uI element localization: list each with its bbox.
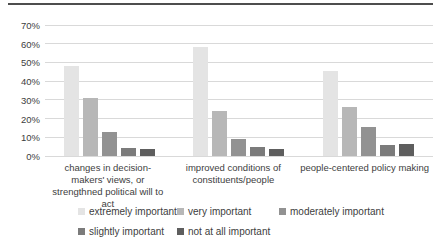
plot-area xyxy=(45,25,433,156)
bar-group xyxy=(304,25,433,156)
legend-label: very important xyxy=(188,206,251,217)
legend-swatch-icon xyxy=(177,228,184,235)
bar-slightly-important xyxy=(380,145,395,156)
legend-item-slightly-important: slightly important xyxy=(78,226,177,237)
y-tick-label: 50% xyxy=(21,57,40,68)
bar-slightly-important xyxy=(121,148,136,156)
legend-label: moderately important xyxy=(290,206,384,217)
y-tick-label: 40% xyxy=(21,76,40,87)
bar-not-at-all-important xyxy=(399,144,414,156)
bar-extremely-important xyxy=(193,47,208,156)
bar-slightly-important xyxy=(250,147,265,156)
bar-extremely-important xyxy=(323,71,338,156)
bar-extremely-important xyxy=(64,66,79,156)
legend: extremely importantvery importantmoderat… xyxy=(78,206,384,237)
x-axis-category-labels: changes in decision-makers' views, or st… xyxy=(45,162,433,210)
y-tick-label: 60% xyxy=(21,38,40,49)
category-label: changes in decision-makers' views, or st… xyxy=(45,162,171,210)
bar-groups xyxy=(45,25,433,156)
legend-item-moderately-important: moderately important xyxy=(279,206,384,217)
legend-item-not-at-all-important: not at all important xyxy=(177,226,279,237)
legend-swatch-icon xyxy=(177,208,184,215)
legend-item-very-important: very important xyxy=(177,206,279,217)
bar-very-important xyxy=(83,98,98,156)
bar-not-at-all-important xyxy=(140,149,155,156)
y-tick-label: 0% xyxy=(26,151,40,162)
bar-not-at-all-important xyxy=(269,149,284,156)
bar-moderately-important xyxy=(361,127,376,156)
legend-swatch-icon xyxy=(78,208,85,215)
y-tick-label: 20% xyxy=(21,113,40,124)
category-label: improved conditions of constituents/peop… xyxy=(171,162,297,210)
legend-label: slightly important xyxy=(89,226,164,237)
top-divider xyxy=(8,3,433,5)
bar-moderately-important xyxy=(231,139,246,156)
legend-item-extremely-important: extremely important xyxy=(78,206,177,217)
bar-very-important xyxy=(212,111,227,156)
legend-label: extremely important xyxy=(89,206,177,217)
y-tick-label: 10% xyxy=(21,132,40,143)
legend-swatch-icon xyxy=(78,228,85,235)
y-tick-label: 30% xyxy=(21,94,40,105)
chart-canvas: 0%10%20%30%40%50%60%70% changes in decis… xyxy=(0,0,438,250)
y-tick-label: 70% xyxy=(21,20,40,31)
y-axis: 0%10%20%30%40%50%60%70% xyxy=(10,25,40,156)
category-label: people-centered policy making xyxy=(296,162,433,210)
bar-group xyxy=(174,25,303,156)
bar-very-important xyxy=(342,107,357,156)
bar-moderately-important xyxy=(102,132,117,156)
legend-label: not at all important xyxy=(188,226,270,237)
legend-swatch-icon xyxy=(279,208,286,215)
bar-group xyxy=(45,25,174,156)
